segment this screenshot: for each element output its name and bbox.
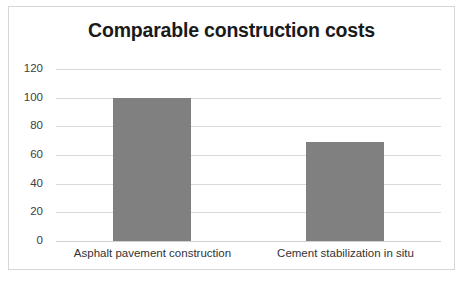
y-axis: 020406080100120 — [9, 69, 51, 241]
gridline — [56, 241, 441, 242]
y-axis-tick-label: 80 — [30, 120, 43, 132]
y-axis-tick-label: 0 — [37, 235, 43, 247]
y-axis-tick-label: 100 — [24, 92, 43, 104]
x-axis-tick-label: Cement stabilization in situ — [249, 247, 442, 259]
chart-title: Comparable construction costs — [9, 19, 454, 42]
y-axis-tick-label: 60 — [30, 149, 43, 161]
chart-frame: Comparable construction costs 0204060801… — [8, 6, 455, 270]
bar[interactable] — [113, 98, 191, 241]
plot-area — [56, 69, 441, 241]
gridline — [56, 69, 441, 70]
y-axis-tick-label: 20 — [30, 206, 43, 218]
x-axis-tick-label: Asphalt pavement construction — [56, 247, 249, 259]
x-axis: Asphalt pavement constructionCement stab… — [56, 247, 441, 269]
y-axis-tick-label: 120 — [24, 63, 43, 75]
y-axis-tick-label: 40 — [30, 178, 43, 190]
bar[interactable] — [306, 142, 384, 241]
